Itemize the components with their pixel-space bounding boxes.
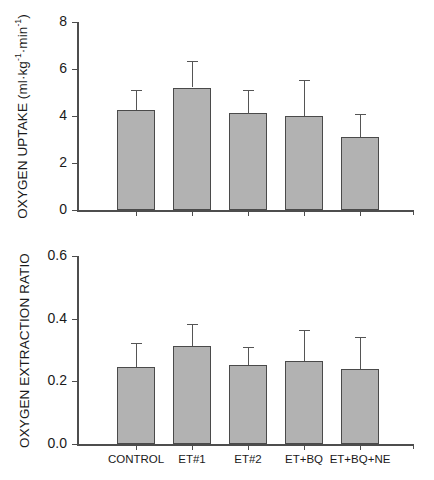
x-axis-tick	[248, 445, 249, 450]
error-bar-cap	[355, 337, 366, 338]
x-axis-tick	[304, 211, 305, 216]
chart-panel-oxygen-extraction-ratio: OXYGEN EXTRACTION RATIO 0.00.20.40.6CONT…	[0, 240, 434, 480]
x-axis-tick	[304, 445, 305, 450]
y-axis-tick	[72, 22, 77, 23]
error-bar-stem	[248, 347, 249, 365]
bar-control	[117, 367, 155, 444]
bar-et-bq-ne	[341, 137, 379, 210]
bar-et-1	[173, 346, 211, 444]
y-axis-tick-label: 8	[33, 13, 67, 29]
y-axis-tick	[72, 381, 77, 382]
y-axis-tick-label: 0.4	[33, 310, 67, 326]
y-axis-tick	[72, 319, 77, 320]
error-bar-stem	[136, 90, 137, 110]
error-bar-stem	[360, 114, 361, 137]
error-bar-cap	[243, 90, 254, 91]
error-bar-stem	[360, 337, 361, 369]
y-axis-tick-label: 0	[33, 201, 67, 217]
bar-et-bq	[285, 361, 323, 444]
chart-panel-oxygen-uptake: OXYGEN UPTAKE (ml·kg-1·min-1) 02468	[0, 0, 434, 240]
x-axis-tick	[360, 445, 361, 450]
y-axis-spine	[77, 256, 79, 445]
bar-et-2	[229, 365, 267, 444]
error-bar-cap	[299, 330, 310, 331]
error-bar-cap	[131, 343, 142, 344]
error-bar-stem	[192, 61, 193, 87]
bar-control	[117, 110, 155, 210]
x-axis-tick	[192, 211, 193, 216]
bar-et-2	[229, 113, 267, 210]
bar-et-1	[173, 88, 211, 210]
x-axis-tick	[136, 211, 137, 216]
x-axis-end-tick	[413, 444, 414, 449]
error-bar-stem	[248, 90, 249, 114]
error-bar-cap	[187, 324, 198, 325]
error-bar-stem	[304, 80, 305, 116]
plot-area-bottom: 0.00.20.40.6CONTROLET#1ET#2ET+BQET+BQ+NE	[0, 240, 434, 480]
x-axis-end-tick	[413, 210, 414, 215]
error-bar-cap	[355, 114, 366, 115]
y-axis-tick	[72, 256, 77, 257]
y-axis-tick-label: 2	[33, 154, 67, 170]
error-bar-cap	[187, 61, 198, 62]
y-axis-tick-label: 0.6	[33, 247, 67, 263]
error-bar-stem	[304, 330, 305, 361]
x-axis-baseline	[77, 210, 414, 212]
y-axis-tick	[72, 116, 77, 117]
bar-et-bq	[285, 116, 323, 210]
y-axis-tick-label: 0.2	[33, 372, 67, 388]
bar-et-bq-ne	[341, 369, 379, 444]
x-axis-tick	[192, 445, 193, 450]
plot-area-top: 02468	[0, 0, 434, 240]
y-axis-tick-label: 0.0	[33, 435, 67, 451]
error-bar-cap	[299, 80, 310, 81]
y-axis-tick-label: 4	[33, 107, 67, 123]
y-axis-tick	[72, 444, 77, 445]
error-bar-stem	[136, 343, 137, 367]
error-bar-stem	[192, 324, 193, 346]
y-axis-tick-label: 6	[33, 60, 67, 76]
error-bar-cap	[131, 90, 142, 91]
y-axis-spine	[77, 22, 79, 211]
x-axis-tick-label-et-bq-ne: ET+BQ+NE	[315, 453, 405, 465]
x-axis-tick	[360, 211, 361, 216]
y-axis-tick	[72, 69, 77, 70]
y-axis-tick	[72, 210, 77, 211]
x-axis-tick	[136, 445, 137, 450]
error-bar-cap	[243, 347, 254, 348]
y-axis-tick	[72, 163, 77, 164]
x-axis-tick	[248, 211, 249, 216]
figure-canvas: OXYGEN UPTAKE (ml·kg-1·min-1) 02468 OXYG…	[0, 0, 434, 480]
x-axis-baseline	[77, 444, 414, 446]
